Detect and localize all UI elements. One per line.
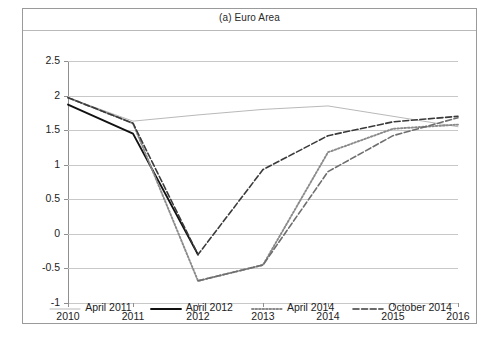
series-line <box>68 98 458 127</box>
legend-label: April 2011 <box>85 301 132 313</box>
y-tick-label: -0.5 <box>20 261 60 273</box>
legend-label: October 2014 <box>388 301 452 313</box>
plot-area <box>68 61 458 303</box>
legend: April 2011April 2012April 2014October 20… <box>23 301 478 313</box>
plot-wrapper: 2.521.510.50-0.5-1 201020112012201320142… <box>23 31 478 325</box>
legend-item[interactable]: April 2014 <box>251 301 334 313</box>
legend-label: April 2012 <box>186 301 233 313</box>
series-line <box>198 118 458 281</box>
legend-swatch-icon <box>251 301 283 313</box>
y-tick-label: 2.5 <box>20 54 60 66</box>
y-tick-label: 0 <box>20 227 60 239</box>
y-tick-label: 1.5 <box>20 123 60 135</box>
y-tick-label: 1 <box>20 158 60 170</box>
title-band: (a) Euro Area <box>23 9 476 31</box>
figure-panel: (a) Euro Area 2.521.510.50-0.5-1 2010201… <box>22 8 477 324</box>
legend-swatch-icon <box>352 301 384 313</box>
legend-item[interactable]: April 2011 <box>49 301 132 313</box>
legend-swatch-icon <box>150 301 182 313</box>
series-line <box>68 98 458 255</box>
series-lines <box>68 61 458 303</box>
y-tick-label: 0.5 <box>20 192 60 204</box>
series-line <box>68 98 458 281</box>
legend-item[interactable]: October 2014 <box>352 301 452 313</box>
y-tick-label: 2 <box>20 89 60 101</box>
legend-swatch-icon <box>49 301 81 313</box>
page-title: (a) Euro Area <box>23 12 476 23</box>
legend-item[interactable]: April 2012 <box>150 301 233 313</box>
legend-label: April 2014 <box>287 301 334 313</box>
